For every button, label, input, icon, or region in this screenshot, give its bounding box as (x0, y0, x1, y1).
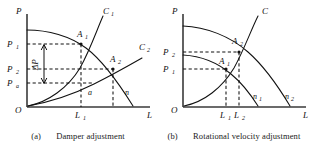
y-tick-pa-sub-a: a (16, 83, 19, 89)
x-tick-l1-a: L 1 (74, 110, 86, 121)
point-a1-marker (79, 42, 82, 45)
curve-label-c2-sub-a: 2 (147, 47, 150, 53)
y-tick-p2-b: P 2 (162, 47, 175, 58)
curve-label-n1-b: n 1 (253, 92, 262, 102)
curve-label-n-a: n (125, 88, 129, 97)
point-label-a2-a: A 2 (109, 54, 121, 65)
caption-text-a: Damper adjustment (56, 131, 125, 141)
annotation-a-a: a (88, 88, 92, 97)
y-tick-p2-sub-a: 2 (16, 69, 19, 75)
chart-b-svg: P L O P 2 P 1 L 1 L 2 C (156, 0, 312, 122)
x-tick-l1-sub-b: 1 (228, 115, 231, 121)
point-a2-marker (111, 67, 114, 70)
caption-text-b: Rotational velocity adjustment (193, 131, 300, 141)
panel-rotational-velocity-adjustment: P L O P 2 P 1 L 1 L 2 C (156, 0, 312, 144)
x-tick-l2-sub-b: 2 (242, 115, 245, 121)
figure-root: P L O P 1 P 2 P a L 1 C (0, 0, 312, 144)
y-tick-p2-text-b: P (162, 47, 169, 57)
curve-label-c-b: C (262, 6, 269, 16)
y-tick-pa-a: P a (6, 78, 19, 89)
point-label-a1-text-a: A (76, 29, 83, 39)
x-tick-l1-text-b: L (219, 110, 225, 120)
point-a1-marker-b (224, 67, 227, 70)
x-axis-label-a: L (146, 110, 152, 120)
curve-label-c1-text-a: C (103, 6, 110, 16)
caption-a: (a) Damper adjustment (0, 131, 156, 141)
x-axis-label-b: L (302, 110, 308, 120)
y-tick-p1-b: P 1 (162, 64, 175, 75)
caption-b: (b) Rotational velocity adjustment (156, 131, 312, 141)
annotation-delta-p-a: ΔP (30, 59, 40, 71)
point-label-a1-a: A 1 (76, 29, 88, 40)
point-a2-marker-b (237, 50, 240, 53)
caption-tag-b: (b) (168, 131, 178, 141)
curve-label-n2-b: n 2 (285, 92, 294, 102)
chart-a-svg: P L O P 1 P 2 P a L 1 C (0, 0, 156, 122)
x-tick-l2-b: L 2 (233, 110, 245, 121)
point-label-a1-sub-b: 1 (227, 61, 230, 67)
point-label-a2-sub-b: 2 (240, 41, 243, 47)
y-tick-p1-sub-a: 1 (16, 44, 19, 50)
point-label-a1-b: A 1 (218, 56, 230, 67)
y-tick-p2-sub-b: 2 (172, 52, 175, 58)
curve-label-c2-a: C 2 (139, 42, 150, 53)
y-axis-label-a: P (15, 6, 22, 16)
point-label-a2-text-b: A (231, 36, 238, 46)
x-tick-l1-text-a: L (74, 110, 80, 120)
curve-label-c1-sub-a: 1 (111, 11, 114, 17)
y-tick-pa-text-a: P (6, 78, 13, 88)
x-tick-l1-sub-a: 1 (83, 115, 86, 121)
point-label-a2-b: A 2 (231, 36, 243, 47)
curve-label-n2-sub-b: 2 (291, 96, 294, 102)
y-axis-label-b: P (171, 6, 178, 16)
y-tick-p2-a: P 2 (6, 64, 19, 75)
curve-label-n2-text-b: n (285, 92, 289, 101)
point-label-a1-text-b: A (218, 56, 225, 66)
y-tick-p1-sub-b: 1 (172, 69, 175, 75)
y-tick-p2-text-a: P (6, 64, 13, 74)
y-tick-p1-text-a: P (6, 39, 13, 49)
curve-label-c2-text-a: C (139, 42, 146, 52)
caption-tag-a: (a) (31, 131, 41, 141)
curve-label-n1-text-b: n (253, 92, 257, 101)
x-tick-l2-text-b: L (233, 110, 239, 120)
curve-label-n1-sub-b: 1 (259, 96, 262, 102)
y-tick-p1-text-b: P (162, 64, 169, 74)
point-label-a1-sub-a: 1 (85, 34, 88, 40)
point-label-a2-text-a: A (109, 54, 116, 64)
origin-label-a: O (15, 105, 22, 115)
point-label-a2-sub-a: 2 (118, 59, 121, 65)
origin-label-b: O (171, 105, 178, 115)
panel-damper-adjustment: P L O P 1 P 2 P a L 1 C (0, 0, 156, 144)
y-tick-p1-a: P 1 (6, 39, 19, 50)
x-tick-l1-b: L 1 (219, 110, 231, 121)
curve-label-c1-a: C 1 (103, 6, 114, 17)
